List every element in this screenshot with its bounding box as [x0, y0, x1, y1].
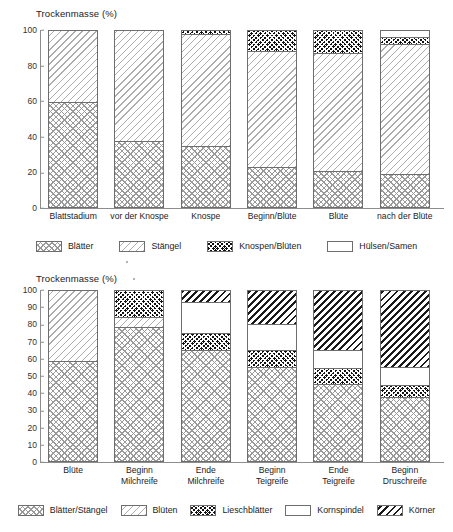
stacked-bar[interactable]: [247, 290, 297, 462]
bar-slot-ende-teigreife: [305, 290, 371, 462]
bar-slot-blattstadium: [40, 30, 106, 208]
bar-segment-bl-tter-st-ngel: [248, 368, 296, 462]
y-tick-80: 80: [28, 320, 41, 329]
stacked-bar[interactable]: [380, 30, 430, 208]
chart-top-bars: [40, 30, 438, 208]
legend-item-k-rner[interactable]: Körner: [377, 505, 435, 516]
legend-swatch-bl-tter: [36, 241, 62, 252]
x-label-vor-der-knospe: vor der Knospe: [106, 211, 172, 222]
bar-segment-k-rner: [248, 291, 296, 325]
bar-segment-k-rner: [314, 291, 362, 351]
legend-label-bl-tter-st-ngel: Blätter/Stängel: [50, 505, 108, 515]
bar-segment-knospen-bl-ten: [248, 31, 296, 52]
bar-slot-beginn-milchreife: [106, 290, 172, 462]
legend-label-lieschbl-tter: Lieschblätter: [222, 505, 272, 515]
y-tick-100: 100: [23, 286, 41, 295]
speck-artifact: [126, 261, 128, 263]
stacked-bar[interactable]: [380, 290, 430, 462]
chart-bottom-bars: [40, 290, 438, 462]
bar-slot-bl-te: [305, 30, 371, 208]
y-tick-90: 90: [28, 303, 41, 312]
legend-swatch-lieschbl-tter: [190, 505, 216, 516]
legend-swatch-bl-ten: [121, 505, 147, 516]
bar-segment-lieschbl-tter: [115, 291, 163, 318]
y-tick-40: 40: [28, 389, 41, 398]
bar-segment-lieschbl-tter: [381, 386, 429, 398]
legend-label-k-rner: Körner: [409, 505, 435, 515]
legend-swatch-h-lsen-samen: [327, 241, 353, 252]
y-tick-70: 70: [28, 337, 41, 346]
y-tick-80: 80: [28, 61, 41, 70]
y-tick-20: 20: [28, 423, 41, 432]
bar-slot-nach-der-bl-te: [372, 30, 438, 208]
x-label-beginn-druschreife: Beginn Druschreife: [372, 465, 438, 486]
bar-segment-bl-tter-st-ngel: [381, 398, 429, 461]
x-label-knospe: Knospe: [173, 211, 239, 222]
x-label-nach-der-bl-te: nach der Blüte: [372, 211, 438, 222]
figure-root: Trockenmasse (%) 020406080100 Blattstadi…: [0, 0, 453, 532]
chart-bottom-plot-area: 0102030405060708090100: [40, 290, 438, 462]
bar-segment-knospen-bl-ten: [314, 31, 362, 54]
chart-bottom-axis-title: Trockenmasse (%): [36, 273, 117, 284]
bar-segment-st-ngel: [115, 31, 163, 142]
x-label-ende-teigreife: Ende Teigreife: [305, 465, 371, 486]
bar-segment-kornspindel: [381, 368, 429, 387]
stacked-bar[interactable]: [313, 30, 363, 208]
bar-segment-lieschbl-tter: [182, 334, 230, 351]
legend-item-bl-tter-st-ngel[interactable]: Blätter/Stängel: [18, 505, 108, 516]
bar-segment-st-ngel: [49, 31, 97, 103]
chart-top: Trockenmasse (%) 020406080100 Blattstadi…: [0, 0, 453, 266]
bar-segment-kornspindel: [314, 351, 362, 370]
bar-slot-knospe: [173, 30, 239, 208]
bar-segment-bl-ten: [49, 291, 97, 362]
stacked-bar[interactable]: [114, 290, 164, 462]
chart-bottom-legend: Blätter/StängelBlütenLieschblätterKornsp…: [0, 502, 453, 518]
y-tick-100: 100: [23, 26, 41, 35]
bar-slot-beginn-druschreife: [372, 290, 438, 462]
legend-swatch-kornspindel: [285, 505, 311, 516]
bar-segment-bl-tter: [314, 172, 362, 207]
legend-item-h-lsen-samen[interactable]: Hülsen/Samen: [327, 241, 417, 252]
stacked-bar[interactable]: [48, 30, 98, 208]
stacked-bar[interactable]: [114, 30, 164, 208]
bar-segment-kornspindel: [248, 325, 296, 351]
bar-segment-bl-tter: [248, 168, 296, 207]
bar-segment-bl-tter-st-ngel: [314, 385, 362, 462]
x-label-ende-milchreife: Ende Milchreife: [173, 465, 239, 486]
y-tick-10: 10: [28, 441, 41, 450]
legend-item-knospen-bl-ten[interactable]: Knospen/Blüten: [207, 241, 301, 252]
chart-bottom-x-axis: [40, 462, 444, 463]
legend-item-bl-tter[interactable]: Blätter: [36, 241, 93, 252]
legend-item-bl-ten[interactable]: Blüten: [121, 505, 178, 516]
legend-item-lieschbl-tter[interactable]: Lieschblätter: [190, 505, 272, 516]
legend-item-kornspindel[interactable]: Kornspindel: [285, 505, 363, 516]
bar-segment-k-rner: [381, 291, 429, 368]
bar-segment-k-rner: [182, 291, 230, 303]
stacked-bar[interactable]: [48, 290, 98, 462]
legend-label-knospen-bl-ten: Knospen/Blüten: [239, 241, 301, 251]
legend-label-kornspindel: Kornspindel: [317, 505, 363, 515]
bar-segment-bl-tter: [49, 103, 97, 207]
bar-slot-vor-der-knospe: [106, 30, 172, 208]
y-tick-40: 40: [28, 133, 41, 142]
legend-swatch-st-ngel: [119, 241, 145, 252]
legend-label-h-lsen-samen: Hülsen/Samen: [359, 241, 417, 251]
bar-segment-knospen-bl-ten: [381, 38, 429, 45]
bar-segment-bl-tter-st-ngel: [182, 351, 230, 462]
y-tick-30: 30: [28, 406, 41, 415]
stacked-bar[interactable]: [181, 290, 231, 462]
legend-swatch-k-rner: [377, 505, 403, 516]
bar-segment-st-ngel: [381, 45, 429, 175]
y-tick-60: 60: [28, 355, 41, 364]
legend-label-bl-tter: Blätter: [68, 241, 93, 251]
bar-slot-beginn-bl-te: [239, 30, 305, 208]
stacked-bar[interactable]: [313, 290, 363, 462]
x-label-beginn-bl-te: Beginn/Blüte: [239, 211, 305, 222]
stacked-bar[interactable]: [181, 30, 231, 208]
x-label-beginn-milchreife: Beginn Milchreife: [106, 465, 172, 486]
bar-segment-lieschbl-tter: [248, 351, 296, 368]
legend-item-st-ngel[interactable]: Stängel: [119, 241, 181, 252]
stacked-bar[interactable]: [247, 30, 297, 208]
y-tick-50: 50: [28, 372, 41, 381]
legend-label-st-ngel: Stängel: [151, 241, 181, 251]
